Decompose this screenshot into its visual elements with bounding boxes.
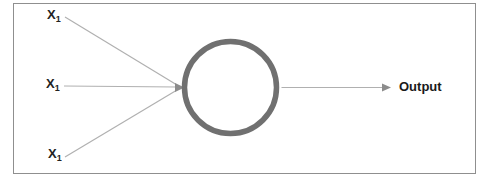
input-label-2-sub: 1	[55, 83, 60, 93]
input-label-2-base: X	[46, 76, 55, 91]
output-label: Output	[399, 80, 442, 93]
input-label-3-sub: 1	[57, 153, 62, 163]
input-label-2: X1	[46, 77, 60, 93]
input-label-1: X1	[47, 8, 61, 24]
input-label-1-sub: 1	[56, 14, 61, 24]
input-label-3-base: X	[48, 146, 57, 161]
input-label-1-base: X	[47, 7, 56, 22]
diagram-canvas: X1 X1 X1 Output	[0, 0, 489, 179]
input-label-3: X1	[48, 147, 62, 163]
